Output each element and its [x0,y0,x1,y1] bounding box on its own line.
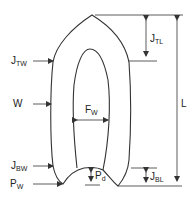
outer-contour [51,15,131,186]
label-w: W [13,99,22,109]
diagram: JTW W JBW PW FW Pd JTL JBL L [0,0,190,203]
label-fw: FW [85,105,98,116]
label-jbl: JBL [150,172,164,183]
label-pd: Pd [95,171,106,182]
label-jtw: JTW [11,56,27,67]
label-pw: PW [10,179,23,190]
label-jtl: JTL [150,34,163,45]
label-jbw: JBW [11,161,27,172]
label-l: L [181,99,187,109]
